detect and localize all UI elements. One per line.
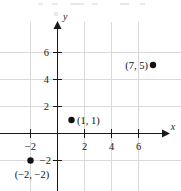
coordinate-plane-figure: y x −2 2 4 6 6 4 2 −2 (7, 5) (1, 1) (−2,… [0, 0, 181, 191]
data-point-neg2-neg2 [27, 157, 33, 163]
data-point-1-1 [68, 117, 74, 123]
scan-artifacts [38, 3, 145, 16]
horizontal-gridlines [0, 53, 181, 161]
data-points [27, 62, 156, 164]
data-point-7-5 [150, 62, 156, 68]
plot-area [0, 0, 181, 191]
